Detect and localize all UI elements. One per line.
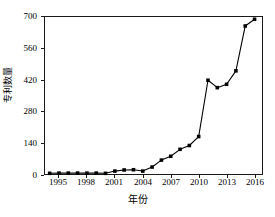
data-point: [243, 24, 247, 28]
data-point: [48, 172, 52, 176]
y-axis-tick-mark: [41, 16, 44, 17]
chart-svg: [45, 17, 262, 174]
data-point: [160, 158, 164, 162]
data-point: [67, 171, 71, 175]
y-axis-tick-mark: [41, 111, 44, 112]
data-point: [169, 155, 173, 159]
y-axis-tick-label: 700: [3, 12, 37, 21]
data-point: [234, 69, 238, 73]
data-point: [122, 168, 126, 172]
data-point: [132, 168, 136, 172]
data-point: [150, 165, 154, 169]
data-point: [225, 83, 229, 87]
y-axis-tick-label: 560: [3, 44, 37, 53]
data-point: [94, 171, 98, 175]
y-axis-title: 专利数量: [3, 55, 13, 115]
data-point: [141, 169, 145, 173]
data-series-line: [50, 19, 255, 173]
data-point: [188, 144, 192, 148]
y-axis-tick-label: 0: [3, 171, 37, 180]
y-axis-tick-mark: [41, 143, 44, 144]
data-point: [253, 17, 257, 21]
data-point: [113, 169, 117, 173]
x-axis-tick-label: 2016: [235, 178, 275, 187]
data-point: [197, 135, 201, 139]
data-point: [206, 78, 210, 82]
data-point: [178, 148, 182, 152]
data-point: [76, 171, 80, 175]
patent-count-line-chart: 0140280420560700 19951998200120042007201…: [0, 0, 275, 217]
x-axis-title: 年份: [0, 194, 275, 205]
y-axis-tick-mark: [41, 80, 44, 81]
data-point-markers: [48, 17, 256, 175]
y-axis-tick-mark: [41, 175, 44, 176]
data-point: [216, 86, 220, 90]
y-axis-tick-label: 140: [3, 139, 37, 148]
y-axis-tick-mark: [41, 48, 44, 49]
data-point: [104, 172, 108, 176]
plot-area: [44, 16, 263, 175]
